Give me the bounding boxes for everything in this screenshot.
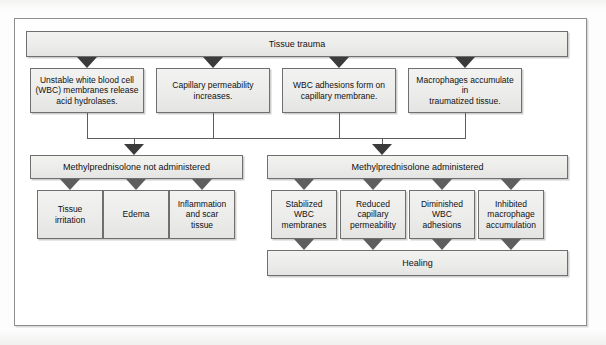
node-mechanism-4-label: Macrophages accumulate in traumatized ti… (413, 75, 517, 105)
arrow-bus-to-branch-1 (124, 144, 144, 155)
connector-stem-mechanism-2 (213, 113, 214, 138)
node-mechanism-1: Unstable white blood cell (WBC) membrane… (30, 68, 144, 113)
branch-bar-not-administered: Methylprednisolone not administered (30, 155, 243, 179)
arrow-outcome-2-to-healing (363, 239, 383, 250)
branch-bar-not-administered-label: Methylprednisolone not administered (63, 162, 210, 173)
arrow-trauma-to-mechanism-3 (329, 57, 349, 68)
arrow-outcome-3-to-healing (432, 239, 452, 250)
connector-merge-bus (87, 138, 466, 139)
node-mechanism-3: WBC adhesions form on capillary membrane… (282, 68, 396, 113)
outcome-tissue-irritation-label: Tissue irritation (55, 204, 85, 224)
outcome-stabilized-wbc-membranes-label: Stabilized WBC membranes (282, 199, 327, 229)
diagram-page: Tissue trauma Unstable white blood cell … (0, 0, 606, 345)
outcome-edema: Edema (103, 190, 169, 239)
branch-bar-administered: Methylprednisolone administered (267, 155, 568, 179)
outcome-reduced-capillary-permeability: Reduced capillary permeability (340, 190, 406, 239)
diagram-frame: Tissue trauma Unstable white blood cell … (14, 18, 587, 326)
node-mechanism-2: Capillary permeability increases. (156, 68, 270, 113)
arrow-outcome-1-to-healing (294, 239, 314, 250)
connector-stem-mechanism-4 (465, 113, 466, 138)
node-healing: Healing (267, 250, 568, 276)
outcome-inhibited-macrophage-accumulation: Inhibited macrophage accumulation (478, 190, 544, 239)
outcome-edema-label: Edema (123, 209, 150, 219)
outcome-inflammation-scar-tissue: Inflammation and scar tissue (169, 190, 235, 239)
node-tissue-trauma: Tissue trauma (26, 31, 568, 57)
node-healing-label: Healing (402, 258, 433, 269)
node-mechanism-3-label: WBC adhesions form on capillary membrane… (293, 80, 385, 100)
connector-stem-mechanism-3 (339, 113, 340, 138)
arrow-branch2-to-outcome-3 (432, 179, 452, 190)
node-mechanism-1-label: Unstable white blood cell (WBC) membrane… (36, 75, 139, 105)
branch-bar-administered-label: Methylprednisolone administered (351, 162, 483, 173)
arrow-branch1-to-outcome-1 (60, 179, 80, 190)
node-mechanism-4: Macrophages accumulate in traumatized ti… (408, 68, 522, 113)
arrow-trauma-to-mechanism-4 (455, 57, 475, 68)
arrow-branch1-to-outcome-2 (126, 179, 146, 190)
outcome-diminished-wbc-adhesions: Diminished WBC adhesions (409, 190, 475, 239)
arrow-branch2-to-outcome-4 (501, 179, 521, 190)
arrow-trauma-to-mechanism-2 (203, 57, 223, 68)
arrow-bus-to-branch-2 (372, 144, 392, 155)
outcome-reduced-capillary-permeability-label: Reduced capillary permeability (350, 199, 396, 229)
arrow-branch1-to-outcome-3 (192, 179, 212, 190)
outcome-diminished-wbc-adhesions-label: Diminished WBC adhesions (421, 199, 463, 229)
connector-stem-mechanism-1 (87, 113, 88, 138)
arrow-branch2-to-outcome-2 (363, 179, 383, 190)
outcome-inflammation-scar-tissue-label: Inflammation and scar tissue (178, 199, 227, 229)
arrow-branch2-to-outcome-1 (294, 179, 314, 190)
node-tissue-trauma-label: Tissue trauma (269, 39, 326, 50)
outcome-tissue-irritation: Tissue irritation (37, 190, 103, 239)
arrow-trauma-to-mechanism-1 (77, 57, 97, 68)
arrow-outcome-4-to-healing (501, 239, 521, 250)
outcome-stabilized-wbc-membranes: Stabilized WBC membranes (271, 190, 337, 239)
node-mechanism-2-label: Capillary permeability increases. (172, 80, 253, 100)
outcome-inhibited-macrophage-accumulation-label: Inhibited macrophage accumulation (486, 199, 536, 229)
